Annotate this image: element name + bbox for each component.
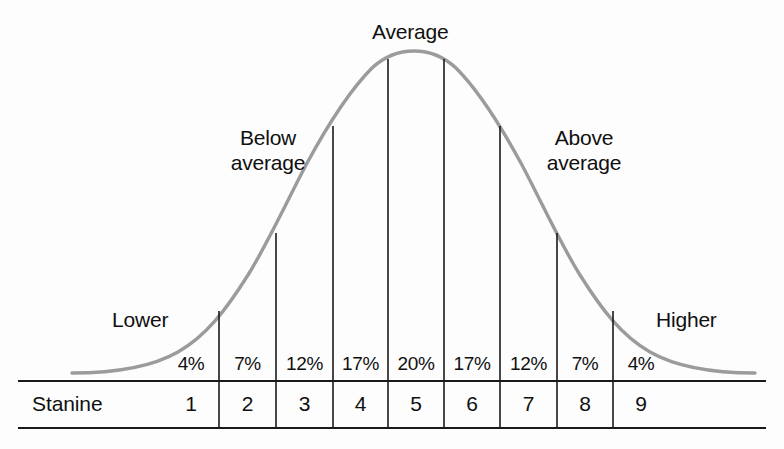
label-below-average-line1: Below <box>208 126 328 151</box>
percent-cell-8: 7% <box>557 353 613 375</box>
label-above-average-line2: average <box>524 151 644 176</box>
percent-cell-1: 4% <box>163 353 219 375</box>
stanine-cell-2: 2 <box>219 392 276 416</box>
figure-canvas <box>0 0 784 449</box>
stanine-cell-8: 8 <box>557 392 613 416</box>
label-below-average: Below average <box>208 126 328 176</box>
percent-cell-7: 12% <box>500 353 557 375</box>
stanine-cell-7: 7 <box>500 392 557 416</box>
stanine-cell-5: 5 <box>388 392 444 416</box>
label-above-average: Above average <box>524 126 644 176</box>
percent-cell-5: 20% <box>388 353 444 375</box>
label-below-average-line2: average <box>208 151 328 176</box>
stanine-cell-9: 9 <box>613 392 669 416</box>
percent-cell-9: 4% <box>613 353 669 375</box>
label-lower: Lower <box>112 308 168 333</box>
stanine-cell-4: 4 <box>333 392 388 416</box>
table-row-header-stanine: Stanine <box>32 392 103 416</box>
percent-cell-2: 7% <box>219 353 276 375</box>
label-average: Average <box>372 20 448 45</box>
label-higher: Higher <box>656 308 717 333</box>
stanine-cell-6: 6 <box>444 392 500 416</box>
stanine-cell-1: 1 <box>163 392 219 416</box>
percent-cell-4: 17% <box>333 353 388 375</box>
label-above-average-line1: Above <box>524 126 644 151</box>
stanine-cell-3: 3 <box>276 392 333 416</box>
bell-curve-path <box>72 51 755 373</box>
stanine-distribution-figure: Average Below average Above average Lowe… <box>0 0 784 449</box>
percent-cell-3: 12% <box>276 353 333 375</box>
percent-cell-6: 17% <box>444 353 500 375</box>
